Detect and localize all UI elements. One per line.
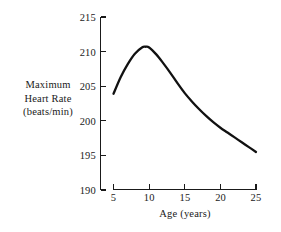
y-tick-label-200: 200 bbox=[80, 116, 96, 127]
x-tick-label-20: 20 bbox=[215, 192, 226, 203]
x-axis-title: Age (years) bbox=[159, 208, 211, 220]
series-line-maximum-heart-rate bbox=[114, 47, 257, 152]
y-axis-ticks bbox=[101, 17, 107, 190]
y-tick-label-210: 210 bbox=[80, 47, 96, 58]
x-axis-tick-labels: 5 10 15 20 25 bbox=[111, 192, 262, 203]
y-axis-tick-labels: 215 210 205 200 195 190 bbox=[80, 12, 96, 196]
y-tick-label-215: 215 bbox=[80, 12, 96, 23]
chart-figure: Maximum Heart Rate (beats/min) 215 210 2… bbox=[0, 0, 281, 232]
x-tick-label-5: 5 bbox=[111, 192, 116, 203]
y-tick-label-195: 195 bbox=[80, 150, 96, 161]
y-tick-label-205: 205 bbox=[80, 81, 96, 92]
x-axis-ticks bbox=[114, 184, 257, 190]
y-tick-label-190: 190 bbox=[80, 185, 96, 196]
x-tick-label-10: 10 bbox=[144, 192, 155, 203]
x-tick-label-25: 25 bbox=[251, 192, 262, 203]
x-tick-label-15: 15 bbox=[179, 192, 190, 203]
plot-area: 215 210 205 200 195 190 5 10 15 20 25 Ag… bbox=[0, 0, 281, 232]
